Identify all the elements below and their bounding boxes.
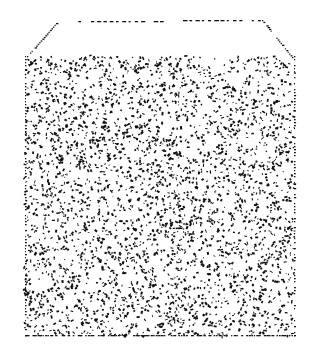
stippled-box-drawing	[0, 0, 311, 354]
box-front-face-speckled	[23, 54, 297, 338]
